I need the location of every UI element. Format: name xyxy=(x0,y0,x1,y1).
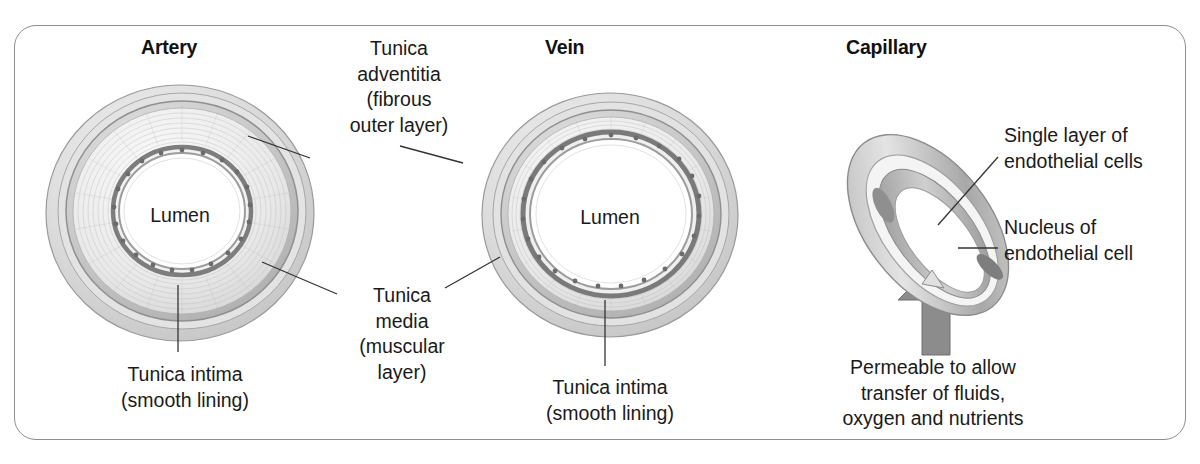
label-tunica-intima-vein: Tunica intima (smooth lining) xyxy=(495,375,725,426)
panel-heading-artery: Artery xyxy=(141,36,197,59)
label-nucleus-endothelial-cell: Nucleus of endothelial cell xyxy=(1004,215,1194,266)
panel-heading-vein: Vein xyxy=(545,36,584,59)
label-tunica-media: Tunica media (muscular layer) xyxy=(327,283,477,385)
label-single-layer-endothelial-cells: Single layer of endothelial cells xyxy=(1004,123,1194,174)
label-tunica-intima-artery: Tunica intima (smooth lining) xyxy=(70,362,300,413)
vessel-comparison-figure: Artery Vein Capillary Lumen Lumen Tunica… xyxy=(0,0,1200,464)
label-tunica-adventitia: Tunica adventitia (fibrous outer layer) xyxy=(314,36,484,138)
lumen-label-artery: Lumen xyxy=(120,204,240,227)
label-permeable-note: Permeable to allow transfer of fluids, o… xyxy=(808,355,1058,432)
lumen-label-vein: Lumen xyxy=(550,206,670,229)
leader-adventitia-vein xyxy=(400,146,463,163)
panel-heading-capillary: Capillary xyxy=(846,36,927,59)
